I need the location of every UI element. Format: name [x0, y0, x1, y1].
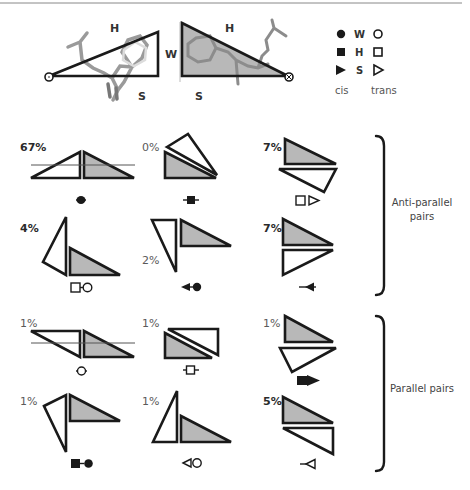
- anti-parallel-cell-chh: 0%: [142, 134, 217, 204]
- anti-parallel-label-line2: pairs: [410, 211, 435, 222]
- right-edge-h: H: [225, 22, 234, 35]
- anti-parallel-cell-thw: 4%: [20, 217, 120, 292]
- open-circle-icon: [78, 367, 86, 375]
- open-circle-icon: [83, 283, 92, 292]
- parallel-cell-chs: 1%: [263, 316, 336, 386]
- open-circle-icon: [193, 459, 201, 467]
- parallel-cell-tss: 5%: [263, 395, 333, 469]
- legend-edge-w: W: [354, 29, 365, 40]
- parallel-cell-tsw: 1%: [142, 391, 231, 467]
- percent-label: 7%: [263, 222, 282, 235]
- percent-label: 4%: [20, 222, 39, 235]
- open-triangle-icon: [306, 460, 315, 469]
- figure-canvas: H W S H W S W H S cis trans 67%: [0, 0, 470, 490]
- filled-triangle-icon: [181, 283, 190, 291]
- legend-cis-label: cis: [335, 85, 349, 96]
- filled-square-icon: [297, 376, 307, 385]
- parallel-bracket: [376, 316, 384, 471]
- percent-label: 1%: [142, 317, 159, 330]
- filled-square-icon: [187, 196, 195, 204]
- anti-parallel-cell-css: 7%: [263, 219, 333, 292]
- parallel-cell-thh: 1%: [142, 317, 218, 374]
- anti-parallel-bracket: [376, 136, 384, 295]
- filled-triangle-icon: [305, 283, 314, 292]
- legend-edge-h: H: [355, 47, 363, 58]
- filled-triangle-icon: [307, 375, 320, 386]
- filled-square-icon: [337, 48, 345, 56]
- percent-label: 1%: [263, 317, 280, 330]
- percent-label: 1%: [20, 395, 37, 408]
- left-edge-w: W: [165, 48, 177, 61]
- left-edge-s: S: [138, 90, 146, 103]
- legend-edge-s: S: [356, 65, 363, 76]
- open-square-icon: [187, 366, 195, 374]
- open-triangle-icon: [309, 196, 319, 205]
- filled-circle-icon: [193, 283, 201, 291]
- filled-circle-icon: [77, 196, 86, 204]
- anti-parallel-cell-cww: 67%: [20, 141, 135, 204]
- percent-label: 67%: [20, 141, 46, 154]
- open-square-icon: [374, 48, 382, 56]
- percent-label: 7%: [263, 141, 282, 154]
- parallel-label: Parallel pairs: [390, 383, 454, 394]
- left-triangle-outline: [49, 32, 158, 76]
- legend: W H S cis trans: [335, 29, 397, 96]
- anti-parallel-cell-csw: 2%: [142, 220, 231, 291]
- parallel-cell-tww: 1%: [20, 317, 135, 375]
- open-circle-icon: [374, 30, 382, 38]
- open-square-icon: [296, 196, 305, 205]
- right-nucleotide-triangle: H W S: [165, 20, 293, 103]
- anti-parallel-label-line1: Anti-parallel: [392, 197, 453, 208]
- filled-circle-icon: [84, 459, 93, 468]
- open-triangle-icon: [183, 459, 191, 467]
- left-nucleotide-triangle: H W S: [45, 22, 177, 103]
- percent-label: 2%: [142, 254, 159, 267]
- percent-label: 0%: [142, 141, 159, 154]
- parallel-cell-chw: 1%: [20, 395, 120, 468]
- percent-label: 1%: [20, 317, 37, 330]
- filled-square-icon: [71, 459, 80, 468]
- left-edge-h: H: [110, 22, 119, 35]
- base-pair-geometry-figure: H W S H W S W H S cis trans 67%: [0, 0, 470, 490]
- right-edge-s: S: [195, 90, 203, 103]
- filled-circle-icon: [337, 30, 345, 38]
- filled-triangle-icon: [336, 65, 346, 75]
- open-square-icon: [71, 283, 80, 292]
- percent-label: 1%: [142, 395, 159, 408]
- anti-parallel-cell-ths: 7%: [263, 139, 336, 205]
- percent-label: 5%: [263, 395, 282, 408]
- open-triangle-icon: [374, 65, 383, 75]
- legend-trans-label: trans: [371, 85, 397, 96]
